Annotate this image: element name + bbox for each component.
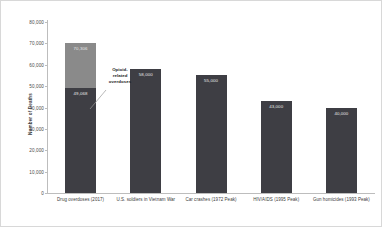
bar-value-label: 49,068 [74,91,88,96]
opioid-callout-annotation: Opioid-relatedoverdoses [100,67,140,86]
bar-total-label: 70,306 [74,46,88,51]
x-axis-line [47,193,375,194]
x-axis-category-label: Car crashes (1972 Peak) [180,197,241,203]
y-axis-tick-label: 30,000 [29,126,48,131]
bar-column[interactable]: 43,000 [261,101,292,193]
bar-segment-lower[interactable]: 58,000 [130,69,161,193]
bar-value-label: 40,000 [334,111,348,116]
bar-column[interactable]: 40,000 [326,108,357,194]
y-axis-tick-label: 0 [41,191,48,196]
chart-container: Number of Deaths 80,00070,00060,00050,00… [0,0,382,227]
bar-segment-lower[interactable]: 55,000 [196,75,227,193]
bar-value-label: 58,000 [139,72,153,77]
y-axis-tick-label: 80,000 [29,20,48,25]
bar-column[interactable]: 58,000 [130,69,161,193]
y-axis-tick-label: 40,000 [29,105,48,110]
bar-column[interactable]: 70,30649,068 [65,43,96,193]
bar-value-label: 55,000 [204,78,218,83]
plot-area: 70,30649,06858,00055,00043,00040,000 [48,22,374,193]
y-axis-tick-label: 70,000 [29,41,48,46]
bar-segment-upper[interactable]: 70,306 [65,43,96,88]
x-axis-category-label: HIV/AIDS (1995 Peak) [246,197,307,203]
bar-segment-lower[interactable]: 43,000 [261,101,292,193]
bar-column[interactable]: 55,000 [196,75,227,193]
y-axis-tick-label: 10,000 [29,169,48,174]
y-axis-tick-label: 60,000 [29,62,48,67]
y-axis-tick-label: 50,000 [29,84,48,89]
bar-segment-lower[interactable]: 40,000 [326,108,357,194]
y-axis-tick-label: 20,000 [29,148,48,153]
callout-line-3: overdoses [100,79,140,85]
x-axis-category-label: Gun homicides (1993 Peak) [311,197,372,203]
bar-value-label: 43,000 [269,104,283,109]
x-axis-category-label: U.S. soldiers in Vietnam War [115,197,176,203]
bar-segment-lower[interactable]: 49,068 [65,88,96,193]
x-axis-category-label: Drug overdoses (2017) [50,197,111,203]
